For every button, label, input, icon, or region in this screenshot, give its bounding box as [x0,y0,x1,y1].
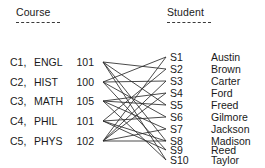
student-id-label: S4 [170,87,183,99]
student-name-label: Carter [211,75,240,87]
student-node-s1[interactable]: S1Austin [0,51,265,63]
student-id-label: S3 [170,75,183,87]
student-node-s2[interactable]: S2Brown [0,63,265,75]
student-name-label: Brown [211,63,241,75]
student-id-label: S1 [170,51,183,63]
student-id-label: S5 [170,99,183,111]
student-header-label: Student [167,6,204,18]
student-node-s6[interactable]: S6Gilmore [0,111,265,123]
student-id-label: S6 [170,111,183,123]
student-id-label: S10 [170,154,189,166]
student-node-s7[interactable]: S7Jackson [0,123,265,135]
student-name-label: Taylor [211,154,239,166]
student-name-label: Gilmore [211,111,248,123]
student-node-s5[interactable]: S5Freed [0,99,265,111]
student-header-underline [167,22,211,23]
student-name-label: Freed [211,99,238,111]
student-id-label: S7 [170,123,183,135]
student-node-s4[interactable]: S4Ford [0,87,265,99]
student-node-s10[interactable]: S10Taylor [0,154,265,166]
student-name-label: Ford [211,87,233,99]
course-header-label: Course [16,6,50,18]
student-name-label: Austin [211,51,240,63]
student-id-label: S2 [170,63,183,75]
student-node-s3[interactable]: S3Carter [0,75,265,87]
course-header-underline [16,22,60,23]
student-name-label: Jackson [211,123,250,135]
